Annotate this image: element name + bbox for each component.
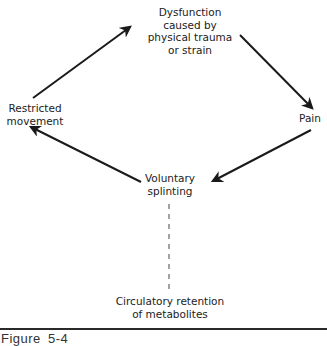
node-splinting-line-1: Voluntary xyxy=(130,172,210,185)
node-dysfunction-line-3: physical trauma xyxy=(130,31,250,44)
node-dysfunction-line-1: Dysfunction xyxy=(130,6,250,19)
node-restricted-line-1: Restricted xyxy=(0,102,70,115)
node-dysfunction: Dysfunction caused by physical trauma or… xyxy=(130,6,250,56)
arrow-splinting-to-restricted xyxy=(31,127,141,182)
node-circulatory-retention: Circulatory retention of metabolites xyxy=(95,295,245,320)
node-dysfunction-line-2: caused by xyxy=(130,19,250,32)
caption-divider xyxy=(0,328,327,330)
arrow-dysfunction-to-pain xyxy=(240,35,312,108)
node-restricted-movement: Restricted movement xyxy=(0,102,70,127)
arrow-restricted-to-dysfunction xyxy=(33,27,130,98)
figure-caption: Figure 5-4 xyxy=(1,331,68,346)
node-pain-line-1: Pain xyxy=(290,112,327,125)
node-splinting-line-2: splinting xyxy=(130,185,210,198)
node-pain: Pain xyxy=(290,112,327,125)
node-circulatory-line-1: Circulatory retention xyxy=(95,295,245,308)
node-dysfunction-line-4: or strain xyxy=(130,44,250,57)
node-voluntary-splinting: Voluntary splinting xyxy=(130,172,210,197)
node-restricted-line-2: movement xyxy=(0,115,70,128)
node-circulatory-line-2: of metabolites xyxy=(95,308,245,321)
arrow-pain-to-splinting xyxy=(213,130,311,181)
